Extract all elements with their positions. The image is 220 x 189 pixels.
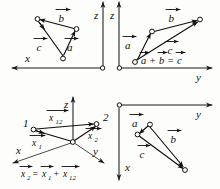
vector-b-arrow-bottom-right [150, 127, 183, 167]
label-a-text-top-right: a [125, 39, 131, 51]
label-x12-base: x [48, 113, 54, 123]
axis-label-x-bottom-left: x [15, 144, 21, 156]
label-vector-x2: x 2 [86, 129, 101, 143]
vertex-bottom-right-top [148, 122, 153, 127]
label-x2-base: x [87, 131, 93, 141]
panel-top-left: b c a x z [12, 2, 105, 70]
vertex-top-left-right [74, 27, 79, 32]
origin-marker-top-left [100, 66, 104, 70]
point-label-1: 1 [23, 117, 29, 129]
label-b-text-bottom-right: b [171, 133, 177, 145]
equation-term-c: c [177, 55, 182, 66]
equation-position-vectors: x 2 = x 1 + x 12 [20, 167, 79, 181]
label-x1-subscript: 1 [39, 143, 42, 150]
label-a-text-bottom-right: a [132, 117, 138, 129]
label-vector-a-top-left: a [65, 39, 78, 53]
label-vector-a-top-right: a [123, 37, 136, 51]
vector-b-arrow-top-left [40, 20, 74, 29]
label-a-text-top-left: a [67, 41, 73, 53]
vector-x12-arrow [36, 124, 94, 129]
vector-a-arrow-bottom-right [140, 126, 149, 134]
equation-plus-operator: + [149, 55, 156, 66]
vertex-bottom-right-left [135, 132, 140, 137]
label-x1-base: x [31, 138, 37, 148]
vector-addition-figure: b c a x z [0, 0, 220, 189]
equation-term-x1-sub: 1 [48, 174, 51, 181]
point-2-marker [94, 122, 99, 127]
vertex-top-right-tip [198, 17, 203, 22]
label-vector-c-top-right: c [166, 42, 178, 56]
equation-term-x1-base: x [41, 169, 47, 179]
panel-bottom-left: 1 2 x 12 x 1 x 2 x y z [13, 97, 109, 181]
axis-x-bottom-left [13, 143, 71, 163]
equation-term-x2-base: x [20, 169, 26, 179]
panel-top-right: b a c a + b = c [109, 2, 212, 83]
vertex-top-right-mid [150, 29, 155, 34]
origin-marker-top-right [117, 66, 121, 70]
origin-marker-bottom-right [117, 103, 121, 107]
panel-bottom-right: a b c y x [117, 103, 212, 180]
axis-label-z-top-left: z [93, 9, 99, 21]
equation-equals-operator-2: = [32, 169, 38, 179]
equation-vector-sum: a + b = c [140, 53, 185, 66]
equation-term-b: b [159, 55, 164, 66]
label-vector-a-bottom-right: a [130, 115, 143, 129]
axis-label-y-bottom-right: y [195, 108, 201, 120]
label-vector-b-top-right: b [166, 10, 180, 24]
axis-label-y-bottom-left: y [92, 145, 98, 157]
vector-c-arrow-top-left [40, 23, 45, 29]
figure-canvas: b c a x z [0, 0, 220, 189]
label-x12-subscript: 12 [56, 118, 63, 125]
point-label-2: 2 [103, 111, 109, 123]
label-b-text-top-right: b [169, 12, 175, 24]
label-vector-b-top-left: b [56, 10, 70, 24]
vertex-top-left-apex [35, 17, 40, 22]
axis-label-y-top-right: y [195, 71, 201, 83]
label-vector-c-bottom-right: c [138, 146, 150, 160]
vertex-bottom-right-tip [183, 168, 188, 173]
equation-term-x12-base: x [62, 169, 68, 179]
label-vector-x12: x 12 [47, 111, 68, 125]
equation-term-x12-sub: 12 [69, 174, 76, 181]
label-c-text-top-left: c [37, 41, 42, 53]
equation-term-a: a [141, 55, 146, 66]
label-vector-c-top-left: c [34, 39, 47, 53]
equation-plus-operator-2: + [53, 169, 59, 179]
axis-label-z-top-right: z [109, 9, 115, 21]
axis-y-bottom-left [75, 144, 104, 164]
point-1-marker [31, 127, 36, 132]
label-x2-subscript: 2 [95, 136, 99, 143]
vertex-top-right-origin [133, 60, 138, 65]
vector-x1-arrow [36, 131, 44, 133]
equation-term-x2-sub: 2 [27, 174, 31, 181]
equation-equals-operator: = [167, 55, 174, 66]
label-vector-b-bottom-right: b [168, 131, 181, 145]
label-c-text-top-right: c [168, 44, 173, 56]
label-c-text-bottom-right: c [140, 148, 145, 160]
axis-label-x-bottom-right: x [124, 161, 130, 173]
axis-label-z-bottom-left: z [63, 98, 69, 110]
vertex-top-left-bottom [61, 56, 66, 61]
label-b-text-top-left: b [59, 12, 65, 24]
label-vector-x1: x 1 [30, 136, 45, 150]
axis-label-x-top-left: x [24, 52, 30, 64]
